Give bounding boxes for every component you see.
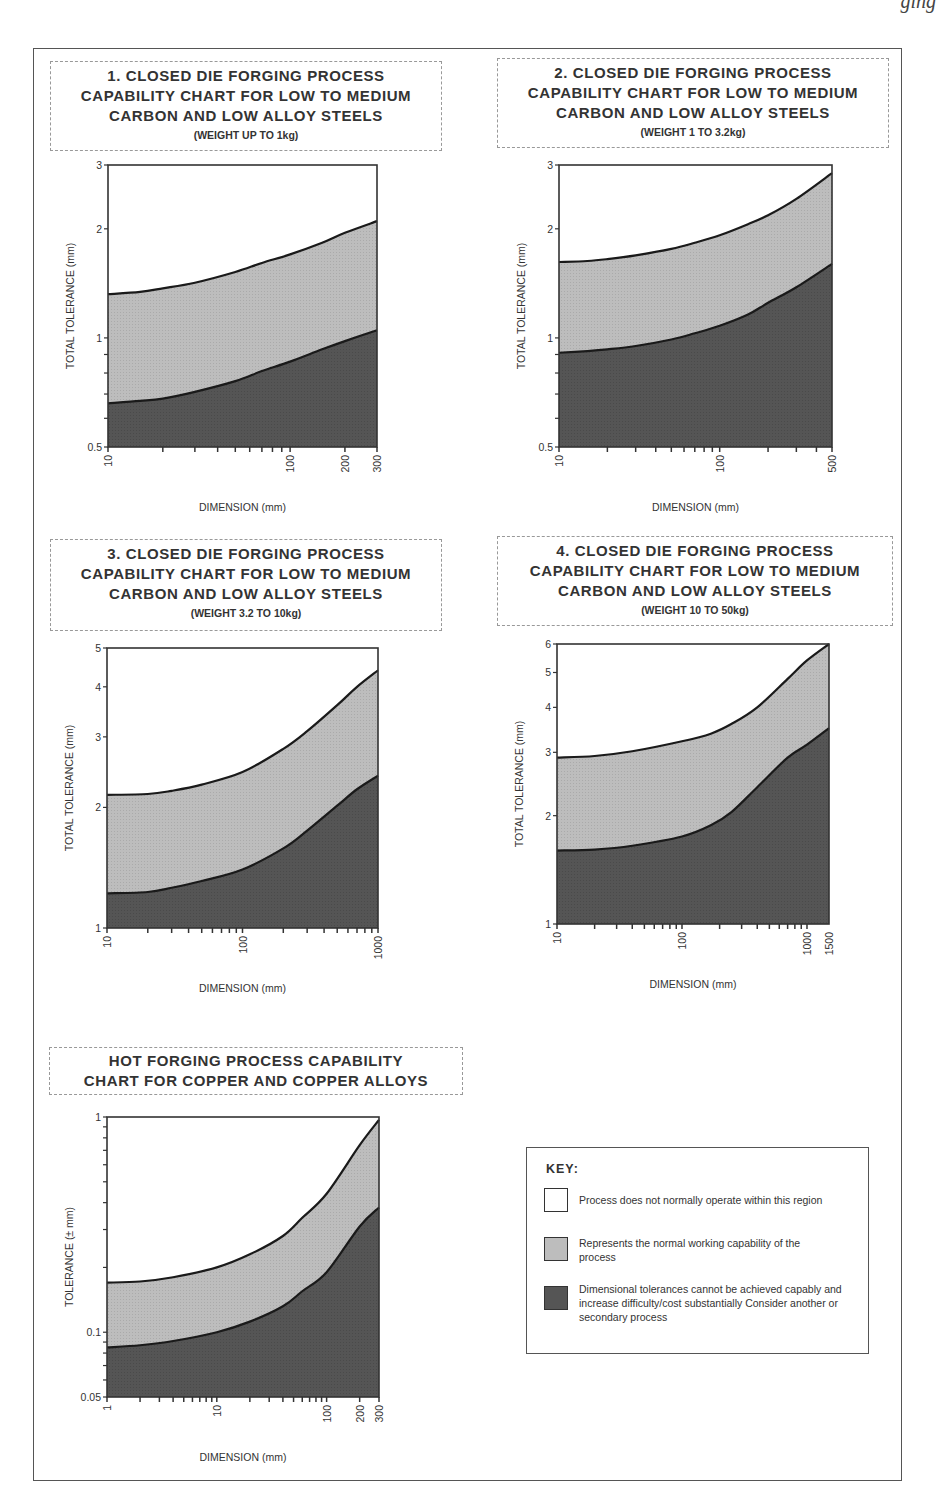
x-tick-label: 10 xyxy=(551,932,563,944)
y-tick-label: 3 xyxy=(96,159,102,171)
key-item-difficult-region: Dimensional tolerances cannot be achieve… xyxy=(544,1286,864,1324)
x-tick-label: 10 xyxy=(102,455,114,467)
x-tick-label: 100 xyxy=(237,936,249,954)
key-label: Represents the normal working capability… xyxy=(579,1236,819,1264)
legend-key: KEY: Process does not normally operate w… xyxy=(526,1147,869,1354)
y-tick-label: 4 xyxy=(95,681,101,693)
y-tick-label: 2 xyxy=(96,223,102,235)
y-tick-label: 5 xyxy=(95,642,101,654)
dark-grey-swatch-icon xyxy=(544,1286,568,1310)
y-tick-label: 3 xyxy=(547,159,553,171)
y-axis-label: TOTAL TOLERANCE (mm) xyxy=(63,725,75,852)
y-tick-label: 0.5 xyxy=(87,441,102,453)
y-axis-label: TOLERANCE (± mm) xyxy=(63,1207,75,1307)
chart-3: 12345101001000TOTAL TOLERANCE (mm)DIMENS… xyxy=(63,642,384,994)
white-swatch-icon xyxy=(544,1188,568,1212)
y-tick-label: 3 xyxy=(95,731,101,743)
y-axis-label: TOTAL TOLERANCE (mm) xyxy=(513,721,525,848)
key-item-normal-capability: Represents the normal working capability… xyxy=(544,1237,819,1264)
y-tick-label: 2 xyxy=(545,810,551,822)
x-axis-label: DIMENSION (mm) xyxy=(650,978,737,990)
y-axis-label: TOTAL TOLERANCE (mm) xyxy=(515,243,527,370)
chart-5: 0.050.11110100200300TOLERANCE (± mm)DIME… xyxy=(63,1111,385,1463)
y-tick-label: 1 xyxy=(547,332,553,344)
x-axis-label: DIMENSION (mm) xyxy=(199,501,286,513)
y-tick-label: 1 xyxy=(96,332,102,344)
y-tick-label: 0.1 xyxy=(86,1326,101,1338)
x-tick-label: 300 xyxy=(371,455,383,473)
x-tick-label: 1000 xyxy=(801,932,813,956)
x-tick-label: 1000 xyxy=(372,936,384,960)
x-tick-label: 10 xyxy=(211,1405,223,1417)
key-label: Process does not normally operate within… xyxy=(579,1193,864,1207)
x-tick-label: 200 xyxy=(354,1405,366,1423)
y-tick-label: 1 xyxy=(95,922,101,934)
x-axis-label: DIMENSION (mm) xyxy=(200,1451,287,1463)
x-axis-label: DIMENSION (mm) xyxy=(199,982,286,994)
key-title: KEY: xyxy=(546,1162,579,1176)
chart-2: 0.512310100500TOTAL TOLERANCE (mm)DIMENS… xyxy=(515,159,838,513)
y-tick-label: 3 xyxy=(545,746,551,758)
y-tick-label: 1 xyxy=(95,1111,101,1123)
x-tick-label: 10 xyxy=(553,455,565,467)
y-tick-label: 4 xyxy=(545,701,551,713)
x-tick-label: 100 xyxy=(321,1405,333,1423)
key-item-not-operate: Process does not normally operate within… xyxy=(544,1188,864,1212)
y-axis-label: TOTAL TOLERANCE (mm) xyxy=(64,243,76,370)
y-tick-label: 5 xyxy=(545,666,551,678)
chart-1: 0.512310100200300TOTAL TOLERANCE (mm)DIM… xyxy=(64,159,383,513)
x-tick-label: 1 xyxy=(101,1405,113,1411)
x-axis-label: DIMENSION (mm) xyxy=(652,501,739,513)
y-tick-label: 1 xyxy=(545,918,551,930)
x-tick-label: 100 xyxy=(676,932,688,950)
x-tick-label: 100 xyxy=(284,455,296,473)
x-tick-label: 100 xyxy=(714,455,726,473)
x-tick-label: 200 xyxy=(339,455,351,473)
y-tick-label: 2 xyxy=(547,223,553,235)
chart-4: 1234561010010001500TOTAL TOLERANCE (mm)D… xyxy=(513,638,835,990)
y-tick-label: 0.05 xyxy=(81,1391,102,1403)
y-tick-label: 0.5 xyxy=(538,441,553,453)
key-label: Dimensional tolerances cannot be achieve… xyxy=(579,1282,864,1324)
y-tick-label: 2 xyxy=(95,801,101,813)
x-tick-label: 500 xyxy=(826,455,838,473)
x-tick-label: 10 xyxy=(101,936,113,948)
y-tick-label: 6 xyxy=(545,638,551,650)
x-tick-label: 300 xyxy=(373,1405,385,1423)
x-tick-label: 1500 xyxy=(823,932,835,956)
light-grey-swatch-icon xyxy=(544,1237,568,1261)
